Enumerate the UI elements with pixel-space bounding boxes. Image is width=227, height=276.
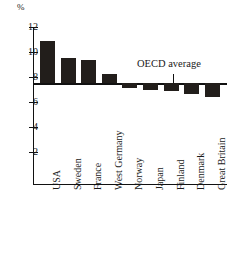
- bar: [143, 83, 158, 89]
- bar: [184, 83, 199, 94]
- bar: [122, 83, 137, 88]
- x-axis-category-label: Finland: [176, 159, 186, 190]
- x-axis-category-label: Denmark: [196, 153, 206, 190]
- bar-chart: % 12108642 OECD average USASwedenFranceW…: [0, 0, 227, 276]
- x-axis-category-label: West Germany: [114, 131, 124, 190]
- bar: [205, 83, 220, 97]
- x-axis-category-label: France: [93, 163, 103, 190]
- x-axis-category-label: Sweden: [73, 158, 83, 190]
- bar: [81, 60, 96, 83]
- x-axis-category-label: Great Britain: [217, 138, 227, 190]
- x-axis-category-label: Norway: [134, 158, 144, 190]
- bar: [102, 74, 117, 83]
- bar: [61, 58, 76, 84]
- bar: [164, 83, 179, 91]
- x-axis-category-label: Japan: [155, 167, 165, 190]
- x-axis-category-label: USA: [52, 170, 62, 190]
- oecd-average-pointer: [173, 74, 174, 83]
- oecd-average-label: OECD average: [137, 58, 201, 69]
- y-axis-unit-label: %: [17, 2, 24, 12]
- bar: [40, 41, 55, 83]
